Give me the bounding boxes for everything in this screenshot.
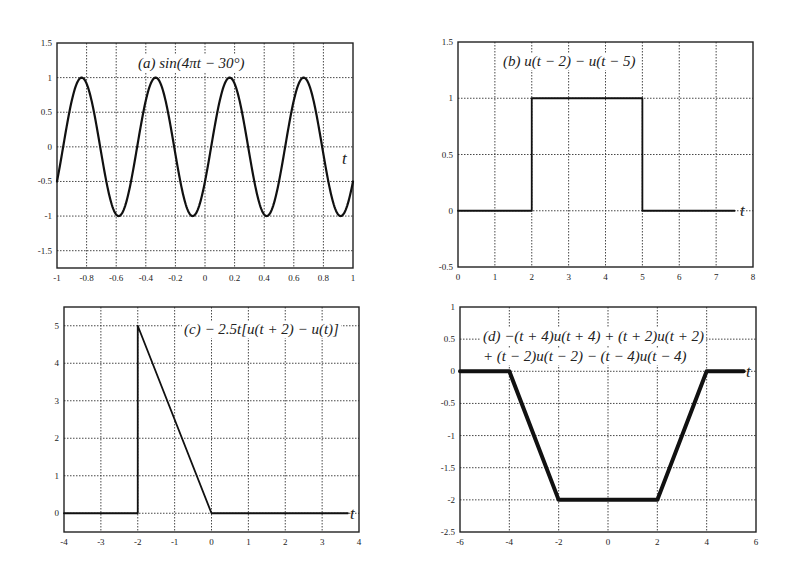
x-tick-label: -2 [555,537,563,547]
x-tick-label: -1 [171,537,179,547]
y-tick-label: -1 [45,211,53,221]
x-tick-label: 7 [714,272,719,282]
x-tick-label: -6 [456,537,464,547]
x-tick-label: -3 [97,537,105,547]
x-tick-label: 4 [603,272,608,282]
y-tick-label: 1 [55,471,60,481]
x-tick-label: 2 [283,537,288,547]
x-tick-label: -4 [506,537,514,547]
x-tick-label: 1 [246,537,251,547]
x-tick-label: 5 [640,272,645,282]
y-tick-label: -2 [448,495,456,505]
x-tick-label: -2 [134,537,142,547]
subplot-title-line2: + (t − 2)u(t − 2) − (t − 4)u(t − 4) [483,348,687,365]
y-tick-label: -1.5 [441,463,456,473]
subplot-title: (b) u(t − 2) − u(t − 5) [503,53,635,70]
subplot-a-sine: -1-0.8-0.6-0.4-0.200.20.40.60.81-1.5-1-0… [38,38,356,283]
y-tick-label: 4 [55,358,60,368]
subplot-d-trapezoid: -6-4-20246-2.5-2-1.5-1-0.500.51(d) −(t +… [441,302,759,547]
x-tick-label: 3 [320,537,325,547]
y-tick-label: 1 [48,73,53,83]
y-tick-label: 1.5 [41,38,53,48]
x-tick-label: -0.8 [79,273,94,283]
x-tick-label: 0.2 [229,273,240,283]
data-line [64,326,348,514]
y-tick-label: -1.5 [38,246,53,256]
x-tick-label: 8 [751,272,756,282]
x-tick-label: 4 [357,537,362,547]
y-tick-label: 0.5 [444,334,456,344]
x-tick-label: 1 [351,273,356,283]
x-tick-label: 3 [566,272,571,282]
y-tick-label: 0 [55,508,60,518]
y-tick-label: 1 [449,93,454,103]
x-tick-label: -0.2 [168,273,182,283]
x-tick-label: 6 [677,272,682,282]
x-tick-label: -0.6 [109,273,124,283]
x-tick-label: 0 [203,273,208,283]
x-tick-label: -1 [53,273,61,283]
subplot-c-ramp: -4-3-2-101234012345(c) − 2.5t[u(t + 2) −… [55,307,362,547]
y-tick-label: 0.5 [41,107,53,117]
y-tick-label: 0 [451,366,456,376]
y-tick-label: -0.5 [439,262,454,272]
y-tick-label: 0 [449,206,454,216]
y-tick-label: 2 [55,433,60,443]
x-tick-label: 4 [704,537,709,547]
x-tick-label: 2 [530,272,535,282]
y-tick-label: -0.5 [441,398,456,408]
y-tick-label: -1 [448,431,456,441]
x-axis-label-t: t [342,149,348,168]
x-tick-label: 0.4 [259,273,271,283]
figure-2x2-signal-plots: -1-0.8-0.6-0.4-0.200.20.40.60.81-1.5-1-0… [0,0,786,577]
subplot-title-line1: (d) −(t + 4)u(t + 4) + (t + 2)u(t + 2) [483,328,704,345]
y-tick-label: 0.5 [442,150,454,160]
subplot-title: (c) − 2.5t[u(t + 2) − u(t)] [184,321,339,338]
subplot-b-rect-pulse: 012345678-0.500.511.5(b) u(t − 2) − u(t … [439,37,756,282]
x-tick-label: 0 [606,537,611,547]
x-tick-label: 0 [456,272,461,282]
x-tick-label: 0.8 [318,273,330,283]
x-tick-label: 6 [754,537,759,547]
y-tick-label: 3 [55,396,60,406]
x-tick-label: 2 [655,537,660,547]
x-tick-label: -0.4 [139,273,154,283]
x-tick-label: -4 [60,537,68,547]
x-tick-label: 0.6 [288,273,300,283]
y-tick-label: -0.5 [38,176,53,186]
x-axis-label-t: t [740,201,746,220]
plots-canvas: -1-0.8-0.6-0.4-0.200.20.40.60.81-1.5-1-0… [0,0,786,577]
y-tick-label: 1.5 [442,37,454,47]
x-tick-label: 0 [209,537,214,547]
y-tick-label: 5 [55,321,60,331]
y-tick-label: -2.5 [441,527,456,537]
y-tick-label: 0 [48,142,53,152]
y-tick-label: 1 [451,302,456,312]
subplot-title: (a) sin(4πt − 30°) [138,55,245,72]
x-tick-label: 1 [493,272,498,282]
